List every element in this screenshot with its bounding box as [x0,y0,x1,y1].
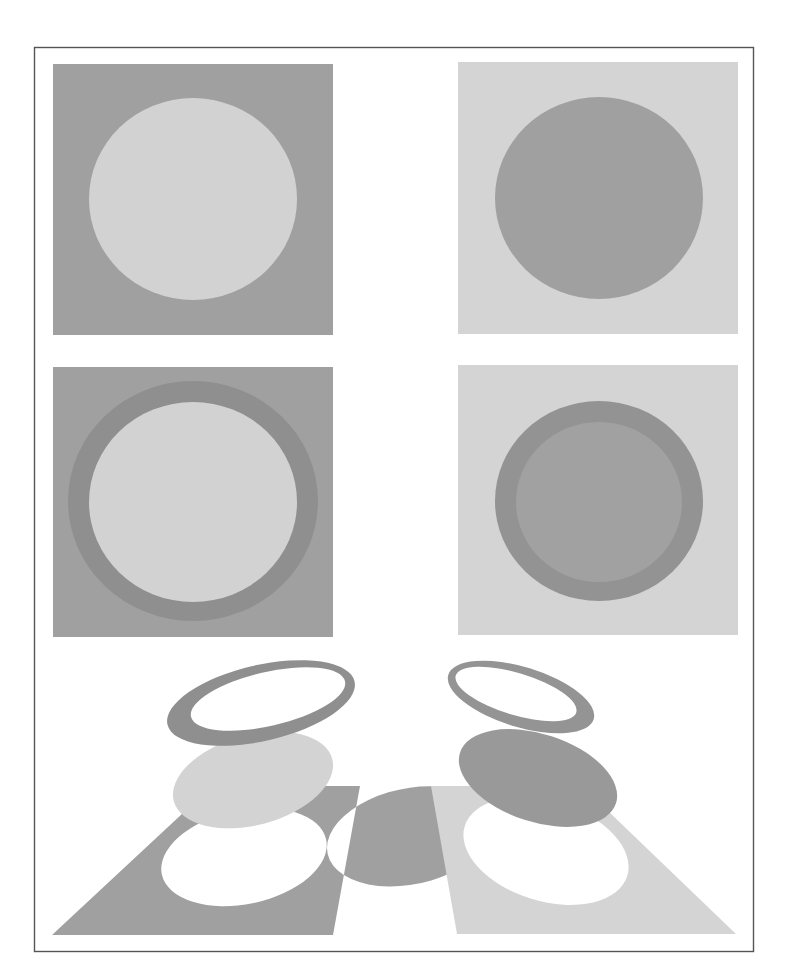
panel-top-right [458,62,738,334]
dark-disc [516,422,682,582]
panel-middle-left [53,367,333,637]
figure-canvas [0,0,794,977]
panel-middle-right [458,365,738,635]
light-disc [89,402,297,602]
light-disc [89,98,297,300]
dark-disc [495,97,703,299]
panel-top-left [53,64,333,335]
